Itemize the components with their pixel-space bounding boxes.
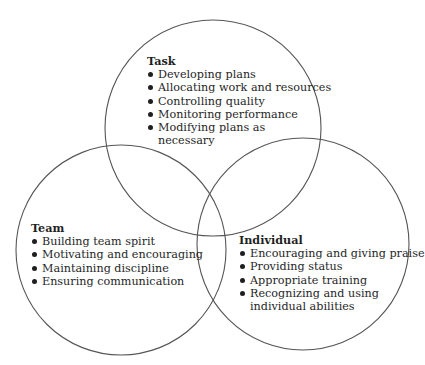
bullet-icon [148,125,153,130]
individual-item: Appropriate training [239,274,425,287]
individual-heading: Individual [239,234,425,247]
task-item-text-continued: necessary [158,134,331,147]
task-item: Controlling quality [147,95,331,108]
task-item-text: Modifying plans as [158,121,331,134]
team-item: Maintaining discipline [31,262,203,275]
team-item-text: Ensuring communication [42,275,184,288]
task-item-text: Developing plans [158,68,256,81]
team-item-text: Maintaining discipline [42,262,169,275]
bullet-icon [148,72,153,77]
team-item: Motivating and encouraging [31,248,203,261]
task-item: Modifying plans as necessary [147,121,331,147]
bullet-icon [148,85,153,90]
task-item-text: Allocating work and resources [158,81,331,94]
bullet-icon [240,264,245,269]
bullet-icon [240,278,245,283]
individual-item: Providing status [239,260,425,273]
bullet-icon [32,266,37,271]
bullet-icon [32,239,37,244]
task-item-text: Controlling quality [158,95,265,108]
team-item: Ensuring communication [31,275,203,288]
team-item-text: Building team spirit [42,235,155,248]
bullet-icon [240,291,245,296]
team-block: Team Building team spirit Motivating and… [31,222,203,288]
bullet-icon [148,112,153,117]
team-list: Building team spirit Motivating and enco… [31,235,203,288]
bullet-icon [148,99,153,104]
task-item: Monitoring performance [147,108,331,121]
task-item-text: Monitoring performance [158,108,298,121]
bullet-icon [32,252,37,257]
individual-block: Individual Encouraging and giving praise… [239,234,425,313]
task-block: Task Developing plans Allocating work an… [147,55,331,147]
individual-item: Recognizing and using individual abiliti… [239,287,425,313]
task-heading: Task [147,55,331,68]
team-heading: Team [31,222,203,235]
individual-item-text-continued: individual abilities [250,300,425,313]
individual-item-text: Appropriate training [250,274,367,287]
task-item: Developing plans [147,68,331,81]
individual-item-text: Encouraging and giving praise [250,247,425,260]
individual-item-text: Recognizing and using [250,287,425,300]
task-list: Developing plans Allocating work and res… [147,68,331,147]
individual-item-text: Providing status [250,260,343,273]
individual-list: Encouraging and giving praise Providing … [239,247,425,313]
bullet-icon [32,279,37,284]
team-item-text: Motivating and encouraging [42,248,203,261]
bullet-icon [240,251,245,256]
task-item: Allocating work and resources [147,81,331,94]
individual-item: Encouraging and giving praise [239,247,425,260]
team-item: Building team spirit [31,235,203,248]
